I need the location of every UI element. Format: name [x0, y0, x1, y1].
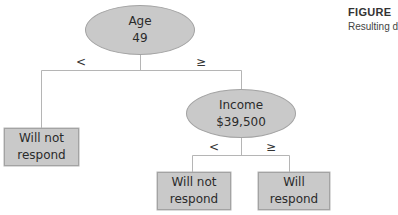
age-node-title: Age [128, 13, 151, 30]
leaf-label-line1: Will not [19, 130, 64, 147]
income-under-threshold-leaf: Will not respond [157, 172, 231, 210]
decision-tree-diagram: Age 49 < ≥ Will not respond Income $39,5… [0, 0, 398, 215]
income-decision-node: Income $39,500 [186, 89, 296, 138]
income-less-than-label: < [209, 141, 219, 153]
figure-label: FIGURE [348, 6, 391, 18]
age-less-than-label: < [76, 56, 86, 68]
figure-caption: Resulting d [348, 21, 398, 32]
age-decision-node: Age 49 [85, 5, 195, 55]
leaf-label-line2: respond [17, 147, 66, 164]
age-under-49-leaf: Will not respond [4, 128, 79, 166]
leaf-label-line1: Will not [171, 174, 216, 191]
leaf-label-line2: respond [170, 191, 219, 208]
age-greater-equal-label: ≥ [196, 56, 206, 68]
income-greater-equal-label: ≥ [266, 141, 276, 153]
income-node-threshold: $39,500 [216, 114, 266, 131]
income-node-title: Income [219, 97, 263, 114]
age-node-threshold: 49 [132, 30, 147, 47]
income-over-threshold-leaf: Will respond [258, 172, 330, 210]
leaf-label: Will respond [259, 174, 329, 208]
